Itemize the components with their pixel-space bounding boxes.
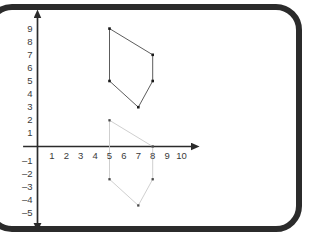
y-tick-label-9: 9 <box>27 24 32 34</box>
vertex-point <box>151 80 154 83</box>
x-tick-label-7: 7 <box>136 151 141 161</box>
series-lower-pentagon <box>108 119 154 206</box>
coordinate-plane-figure: 12345678910987654321–1–2–3–4–5 <box>0 0 309 236</box>
y-tick-label-7: 7 <box>27 50 32 60</box>
x-tick-label-6: 6 <box>121 151 126 161</box>
vertex-point <box>108 119 110 121</box>
plot-canvas <box>0 0 309 236</box>
y-tick-label-2: 2 <box>27 116 32 126</box>
y-tick-label-neg5: –5 <box>22 208 33 218</box>
lower-pentagon-outline <box>110 120 153 205</box>
x-tick-label-1: 1 <box>49 151 54 161</box>
vertex-point <box>152 178 154 180</box>
vertex-point <box>151 54 154 57</box>
y-tick-label-neg3: –3 <box>22 182 33 192</box>
x-tick-label-9: 9 <box>164 151 169 161</box>
vertex-point <box>108 80 111 83</box>
x-tick-label-3: 3 <box>78 151 83 161</box>
upper-pentagon-outline <box>110 29 153 108</box>
vertex-point <box>108 178 110 180</box>
x-tick-label-4: 4 <box>92 151 97 161</box>
y-tick-label-neg2: –2 <box>22 169 33 179</box>
x-tick-label-5: 5 <box>107 151 112 161</box>
vertex-point <box>108 27 111 30</box>
vertex-point <box>137 204 139 206</box>
x-tick-label-8: 8 <box>150 151 155 161</box>
y-tick-label-1: 1 <box>27 129 32 139</box>
y-tick-label-8: 8 <box>27 37 32 47</box>
vertex-point <box>152 145 154 147</box>
y-tick-label-neg4: –4 <box>22 195 33 205</box>
y-tick-label-neg1: –1 <box>22 156 33 166</box>
series-upper-pentagon <box>108 27 154 108</box>
x-tick-label-2: 2 <box>64 151 69 161</box>
y-tick-label-4: 4 <box>27 89 32 99</box>
y-tick-label-3: 3 <box>27 102 32 112</box>
y-tick-label-5: 5 <box>27 76 32 86</box>
axes <box>23 17 191 223</box>
x-tick-label-10: 10 <box>176 151 187 161</box>
y-tick-label-6: 6 <box>27 63 32 73</box>
vertex-point <box>137 106 140 109</box>
data-series-group <box>108 27 154 206</box>
